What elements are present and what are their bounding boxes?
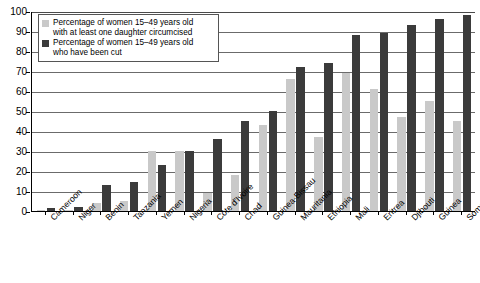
y-axis-tick-mark	[26, 72, 30, 73]
bar	[380, 33, 389, 211]
x-axis-tick-mark	[45, 212, 46, 215]
x-axis-tick-label: Mauritania	[299, 216, 305, 222]
x-axis-tick-label: Mali	[354, 216, 360, 222]
x-axis-tick-label: Chad	[243, 216, 249, 222]
y-axis-tick-mark	[26, 52, 30, 53]
bar-chart: 1009080706050403020100 Percentage of wom…	[0, 0, 480, 283]
x-axis-tick-label: Eritrea	[382, 216, 388, 222]
bar	[185, 151, 194, 211]
x-axis-tick-mark	[267, 212, 268, 215]
y-axis-tick-mark	[26, 112, 30, 113]
bar	[342, 73, 351, 211]
bar-group	[421, 12, 449, 211]
bar-group	[365, 12, 393, 211]
x-axis-tick-mark	[406, 212, 407, 215]
legend-label-line: with at least one daughter circumcised	[53, 28, 192, 37]
x-axis-tick-mark	[295, 212, 296, 215]
legend-swatch-light-icon	[42, 20, 49, 27]
x-axis-tick-mark	[350, 212, 351, 215]
y-axis-tick-mark	[26, 92, 30, 93]
bar	[130, 182, 139, 211]
bar	[463, 15, 472, 211]
y-axis-tick-label: 100	[10, 7, 27, 17]
legend-item-label: Percentage of women 15–49 years old with…	[53, 18, 193, 37]
bar-group	[337, 12, 365, 211]
legend-swatch-dark-icon	[42, 40, 49, 47]
bar	[370, 89, 379, 211]
x-axis-tick-label: Ethiopia	[326, 216, 332, 222]
x-axis-tick-label: Benin	[104, 216, 110, 222]
x-axis-tick-label: Niger	[77, 216, 83, 222]
x-axis-tick-label: Somalia	[465, 216, 471, 222]
bar	[37, 210, 46, 211]
x-axis-tick-mark	[128, 212, 129, 215]
y-axis: 1009080706050403020100	[0, 0, 30, 283]
x-axis-tick-mark	[211, 212, 212, 215]
y-axis-tick-mark	[26, 32, 30, 33]
chart-legend: Percentage of women 15–49 years old with…	[38, 14, 219, 62]
x-axis-tick-label: Guinea	[437, 216, 443, 222]
bar-group	[393, 12, 421, 211]
legend-label-line: Percentage of women 15–49 years old	[53, 38, 193, 47]
bar	[269, 111, 278, 211]
x-axis-tick-mark	[156, 212, 157, 215]
legend-label-line: Percentage of women 15–49 years old	[53, 18, 193, 27]
bar	[259, 125, 268, 211]
x-axis-tick-label: Djibouti	[410, 216, 416, 222]
x-axis-tick-mark	[378, 212, 379, 215]
legend-label-line: who have been cut	[53, 48, 122, 57]
x-axis: CameroonNigerBeninTanzaniaYemenNigeriaCô…	[31, 212, 475, 283]
bar	[352, 35, 361, 211]
x-axis-tick-label: Nigeria	[188, 216, 194, 222]
x-axis-tick-mark	[239, 212, 240, 215]
x-axis-tick-mark	[433, 212, 434, 215]
bar	[102, 185, 111, 211]
legend-item-label: Percentage of women 15–49 years old who …	[53, 38, 193, 57]
x-axis-tick-mark	[73, 212, 74, 215]
y-axis-tick-mark	[26, 172, 30, 173]
y-axis-tick-mark	[26, 212, 30, 213]
legend-item: Percentage of women 15–49 years old with…	[42, 18, 214, 37]
x-axis-tick-label: Guinea-Bissau	[271, 216, 277, 222]
bar-group	[254, 12, 282, 211]
x-axis-tick-mark	[461, 212, 462, 215]
y-axis-tick-mark	[26, 12, 30, 13]
y-axis-tick-mark	[26, 192, 30, 193]
bar	[213, 139, 222, 211]
x-axis-tick-label: Tanzania	[132, 216, 138, 222]
x-axis-tick-mark	[100, 212, 101, 215]
x-axis-tick-label: Cameroon	[49, 216, 55, 222]
bar-group	[226, 12, 254, 211]
x-axis-tick-label: Côte d'Ivoire	[215, 216, 221, 222]
x-axis-tick-mark	[322, 212, 323, 215]
x-axis-tick-mark	[184, 212, 185, 215]
bar-group	[448, 12, 476, 211]
y-axis-tick-mark	[26, 132, 30, 133]
bar	[158, 165, 167, 211]
y-axis-tick-mark	[26, 152, 30, 153]
bar	[435, 19, 444, 211]
bar	[407, 25, 416, 211]
x-axis-tick-label: Yemen	[160, 216, 166, 222]
legend-item: Percentage of women 15–49 years old who …	[42, 38, 214, 57]
